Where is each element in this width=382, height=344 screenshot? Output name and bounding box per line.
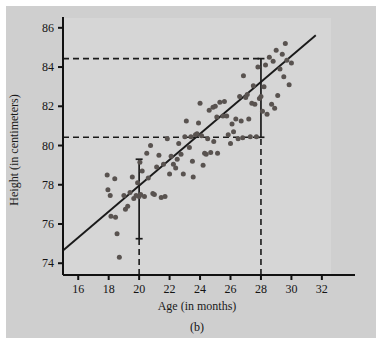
data-point <box>230 121 235 126</box>
data-point <box>237 94 242 99</box>
data-point <box>213 104 218 109</box>
data-point <box>199 133 204 138</box>
data-point <box>284 58 289 63</box>
data-point <box>105 172 110 177</box>
data-point <box>254 134 259 139</box>
data-point <box>179 152 184 157</box>
y-tick-label: 82 <box>42 99 54 113</box>
figure-caption: (b) <box>190 320 204 334</box>
data-point <box>142 194 147 199</box>
data-point <box>263 63 268 68</box>
data-point <box>184 118 189 123</box>
data-point <box>140 169 145 174</box>
data-point <box>163 194 168 199</box>
data-point <box>175 157 180 162</box>
data-point <box>169 154 174 159</box>
data-point <box>260 109 265 114</box>
data-point <box>115 231 120 236</box>
data-point <box>211 139 216 144</box>
data-point <box>117 255 122 260</box>
data-point <box>125 204 130 209</box>
data-point <box>269 102 274 107</box>
data-point <box>246 117 251 122</box>
y-tick-label: 80 <box>42 139 54 153</box>
data-point <box>128 190 133 195</box>
x-tick-label: 24 <box>194 282 206 296</box>
data-point <box>272 106 277 111</box>
data-point <box>251 83 256 88</box>
chart-svg-wrapper: 74767880828486161820222426283032 Age (in… <box>0 0 382 344</box>
data-point <box>248 134 253 139</box>
data-point <box>280 52 285 57</box>
data-point <box>182 134 187 139</box>
data-point <box>217 100 222 105</box>
data-point <box>271 59 276 64</box>
y-tick-label: 74 <box>42 256 54 270</box>
data-point <box>154 165 159 170</box>
data-point <box>152 192 157 197</box>
data-point <box>231 129 236 134</box>
data-point <box>176 141 181 146</box>
data-point <box>228 141 233 146</box>
data-point <box>226 132 231 137</box>
data-point <box>267 55 272 60</box>
data-point <box>215 151 220 156</box>
data-point <box>236 136 241 141</box>
data-point <box>156 153 161 158</box>
data-point <box>289 61 294 66</box>
data-point <box>108 214 113 219</box>
x-tick-label: 26 <box>225 282 237 296</box>
data-point <box>190 159 195 164</box>
data-point <box>173 166 178 171</box>
x-tick-label: 28 <box>255 282 267 296</box>
data-point <box>187 145 192 150</box>
x-tick-label: 30 <box>285 282 297 296</box>
data-point <box>252 102 257 107</box>
data-point <box>281 74 286 79</box>
data-point <box>165 136 170 141</box>
data-point <box>275 93 280 98</box>
data-point <box>112 176 117 181</box>
data-point <box>181 171 186 176</box>
data-point <box>148 143 153 148</box>
data-point <box>262 84 267 89</box>
y-tick-label: 78 <box>42 178 54 192</box>
data-point <box>240 135 245 140</box>
data-point <box>135 180 140 185</box>
data-point <box>121 193 126 198</box>
x-tick-label: 16 <box>72 282 84 296</box>
data-point <box>144 151 149 156</box>
data-point <box>113 215 118 220</box>
data-point <box>188 134 193 139</box>
x-tick-label: 32 <box>316 282 328 296</box>
y-tick-label: 84 <box>42 60 54 74</box>
data-point <box>195 131 200 136</box>
y-tick-label: 76 <box>42 217 54 231</box>
data-point <box>283 41 288 46</box>
data-point <box>255 65 260 70</box>
data-point <box>161 162 166 167</box>
data-point <box>191 174 196 179</box>
data-point <box>198 101 203 106</box>
x-tick-label: 18 <box>103 282 115 296</box>
data-point <box>167 171 172 176</box>
figure-container: 74767880828486161820222426283032 Age (in… <box>0 0 382 344</box>
scatter-plot: 74767880828486161820222426283032 Age (in… <box>0 0 382 344</box>
x-tick-label: 22 <box>164 282 176 296</box>
data-point <box>130 174 135 179</box>
data-point <box>258 94 263 99</box>
data-point <box>105 187 110 192</box>
data-point <box>239 118 244 123</box>
data-point <box>205 136 210 141</box>
x-tick-label: 20 <box>133 282 145 296</box>
data-point <box>196 120 201 125</box>
data-point <box>265 112 270 117</box>
data-point <box>287 82 292 87</box>
data-point <box>277 67 282 72</box>
data-point <box>137 160 142 165</box>
data-point <box>201 163 206 168</box>
data-point <box>222 99 227 104</box>
y-tick-label: 86 <box>42 21 54 35</box>
data-point <box>146 175 151 180</box>
data-point <box>245 92 250 97</box>
